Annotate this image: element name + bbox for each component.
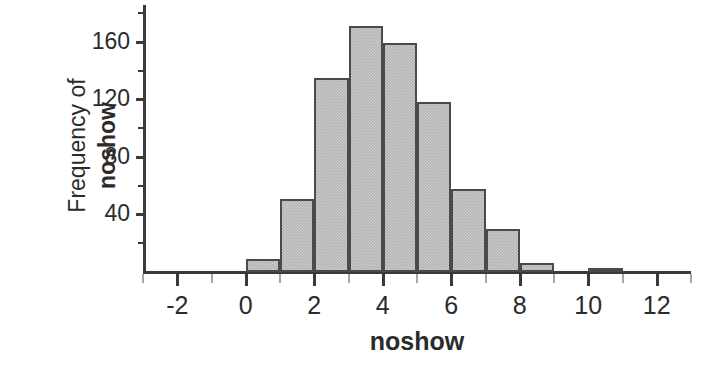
x-axis-tick	[450, 274, 453, 286]
y-axis-minor-tick	[138, 12, 146, 14]
y-axis-tick	[136, 98, 146, 101]
x-axis-minor-tick	[211, 274, 213, 283]
y-axis-tick-label: 80	[70, 143, 130, 170]
y-axis-minor-tick	[138, 242, 146, 244]
x-axis-tick-label: 8	[490, 291, 550, 320]
histogram-bar	[280, 199, 314, 272]
x-axis-minor-tick	[279, 274, 281, 283]
x-axis-tick-label: 4	[353, 291, 413, 320]
y-axis-tick-label: 160	[70, 28, 130, 55]
y-axis-tick-label: 120	[70, 85, 130, 112]
x-axis-tick	[519, 274, 522, 286]
x-axis-tick-label: 6	[421, 291, 481, 320]
y-axis-minor-tick	[138, 185, 146, 187]
x-axis-minor-tick	[690, 274, 692, 283]
histogram-bar	[486, 229, 520, 272]
histogram-bar	[246, 259, 280, 272]
x-axis-tick	[382, 274, 385, 286]
y-axis-tick	[136, 213, 146, 216]
x-axis-minor-tick	[485, 274, 487, 283]
x-axis-tick-label: 10	[558, 291, 618, 320]
histogram-bar	[520, 263, 554, 272]
x-axis-tick	[176, 274, 179, 286]
x-axis-minor-tick	[553, 274, 555, 283]
x-axis-title: noshow	[143, 327, 691, 356]
x-axis-tick	[587, 274, 590, 286]
x-axis-tick	[313, 274, 316, 286]
histogram-bar	[417, 102, 451, 272]
x-axis-tick-label: 12	[627, 291, 687, 320]
x-axis-tick-label: 0	[216, 291, 276, 320]
y-axis-minor-tick	[138, 70, 146, 72]
y-axis-tick	[136, 41, 146, 44]
y-axis-tick-label: 40	[70, 200, 130, 227]
x-axis-tick-label: 2	[284, 291, 344, 320]
x-axis-minor-tick	[622, 274, 624, 283]
histogram-bar	[349, 26, 383, 272]
histogram-figure: Frequency of noshow 4080120160-202468101…	[0, 0, 723, 382]
histogram-bar	[314, 78, 348, 272]
x-axis-minor-tick	[416, 274, 418, 283]
histogram-bar	[588, 268, 622, 272]
x-axis-tick	[245, 274, 248, 286]
y-axis-minor-tick	[138, 127, 146, 129]
histogram-bar	[451, 189, 485, 272]
x-axis-tick	[656, 274, 659, 286]
x-axis-minor-tick	[142, 274, 144, 283]
histogram-bar	[383, 43, 417, 272]
y-axis-line	[143, 5, 146, 273]
x-axis-tick-label: -2	[147, 291, 207, 320]
y-axis-tick	[136, 156, 146, 159]
x-axis-minor-tick	[348, 274, 350, 283]
